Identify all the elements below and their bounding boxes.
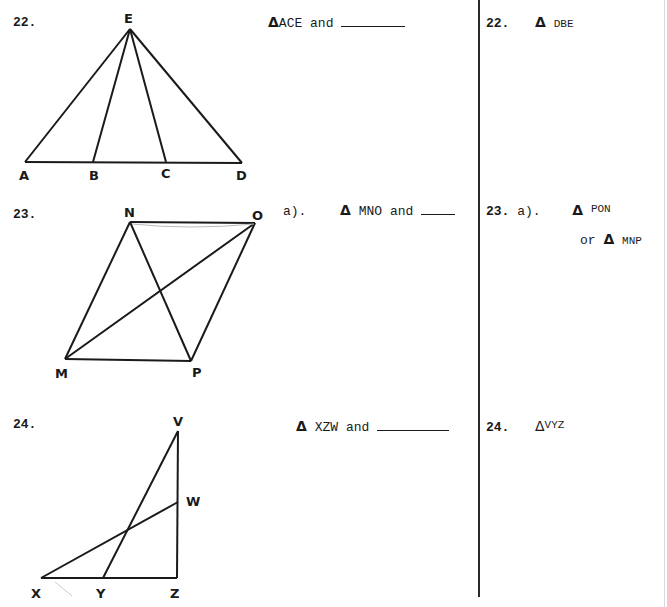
question-24: Δ XZW and [296,418,449,435]
question-triangle: ACE [279,16,302,31]
figures-canvas: E A B C D N O M P V W X Y Z [0,0,667,607]
problem-number-23: 23. [13,207,36,222]
answer-23: 23. a). Δ PON [486,202,611,219]
triangle-symbol: Δ [535,14,546,30]
triangle-symbol: Δ [535,418,545,434]
figure-22-triangles [25,29,242,163]
label-W: W [186,494,200,509]
answer-key-divider [478,0,480,597]
answer-triangle: DBE [554,18,574,30]
question-triangle: MNO [359,204,382,219]
label-C: C [161,166,171,181]
pencil-mark [132,224,254,227]
label-O: O [252,208,263,223]
answer-24: 24. ΔVYZ [486,418,564,435]
figure-23-parallelogram [65,222,255,361]
answer-blank[interactable] [421,213,455,215]
label-N: N [124,205,135,220]
label-B: B [89,168,99,183]
triangle-symbol: Δ [340,202,351,218]
answer-number: 24. [486,420,509,435]
label-Y: Y [95,586,106,601]
label-D: D [236,168,247,183]
answer-blank[interactable] [341,25,405,27]
label-E: E [124,11,133,26]
label-X: X [31,586,41,601]
answer-22: 22. Δ DBE [486,14,574,31]
question-conjunction: and [390,204,413,219]
triangle-symbol: Δ [296,418,307,434]
label-Z: Z [170,586,179,601]
label-P: P [192,365,202,380]
answer-alt-conjunction: or [580,233,596,248]
question-prefix: a). [283,204,306,219]
problem-number-24: 24. [13,417,36,432]
question-23: a). Δ MNO and [283,202,455,219]
answer-prefix: a). [517,204,540,219]
page-edge [664,0,665,607]
answer-number: 23. [486,204,509,219]
question-conjunction: and [346,420,369,435]
answer-triangle: VYZ [545,419,565,431]
triangle-symbol: Δ [603,231,614,247]
problem-number-22: 22. [13,15,36,30]
answer-23-alt: or Δ MNP [580,231,642,248]
pencil-mark [55,582,72,596]
label-M: M [55,366,68,381]
question-conjunction: and [310,16,333,31]
triangle-symbol: Δ [268,14,279,30]
answer-blank[interactable] [377,429,449,431]
answer-number: 22. [486,16,509,31]
triangle-symbol: Δ [572,202,583,218]
figure-24-triangles [41,431,178,578]
question-22: ΔACE and [268,14,405,31]
label-A: A [19,168,29,183]
label-V: V [173,414,183,429]
answer-alt-triangle: MNP [622,235,642,247]
question-triangle: XZW [315,420,338,435]
answer-triangle: PON [591,203,611,215]
